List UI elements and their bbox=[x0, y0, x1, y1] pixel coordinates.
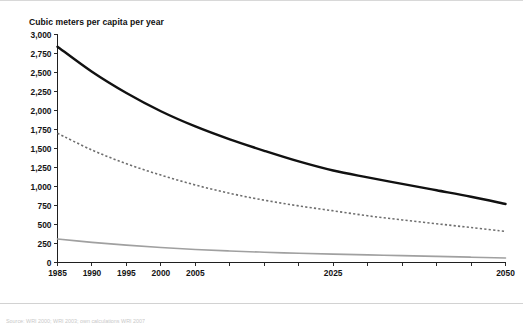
y-tick-label: 2,500 bbox=[31, 68, 52, 78]
figure-container: Cubic meters per capita per year 3,0002,… bbox=[0, 0, 523, 327]
y-tick-label: 250 bbox=[38, 239, 52, 249]
source-note: Source: WRI 2000; WRI 2003; own calculat… bbox=[6, 318, 145, 327]
x-axis-ticks: 1985199019952000200520252050 bbox=[48, 263, 515, 279]
y-tick-label: 1,750 bbox=[31, 125, 52, 135]
y-axis-ticks: 3,0002,7502,5002,2502,0001,7501,5001,250… bbox=[31, 30, 58, 268]
y-tick-label: 500 bbox=[38, 220, 52, 230]
series-line-mashriq bbox=[58, 47, 506, 204]
y-tick-label: 0 bbox=[47, 258, 52, 268]
y-tick-label: 750 bbox=[38, 201, 52, 211]
x-tick-label: 2025 bbox=[324, 268, 343, 278]
figure-bottom-divider bbox=[0, 303, 523, 304]
x-tick-label: 2050 bbox=[496, 268, 515, 278]
series-line-arabian-peninsula bbox=[58, 239, 506, 258]
x-tick-label: 2000 bbox=[152, 268, 171, 278]
x-tick-label: 2005 bbox=[186, 268, 205, 278]
y-tick-label: 2,750 bbox=[31, 49, 52, 59]
plot-area: 3,0002,7502,5002,2502,0001,7501,5001,250… bbox=[0, 0, 523, 300]
y-tick-label: 1,500 bbox=[31, 144, 52, 154]
x-tick-label: 1995 bbox=[117, 268, 136, 278]
line-chart: 3,0002,7502,5002,2502,0001,7501,5001,250… bbox=[0, 0, 523, 300]
y-tick-label: 3,000 bbox=[31, 30, 52, 40]
y-tick-label: 1,250 bbox=[31, 163, 52, 173]
y-tick-label: 1,000 bbox=[31, 182, 52, 192]
series-line-middle-east bbox=[58, 133, 506, 231]
series-group bbox=[58, 47, 506, 258]
x-tick-label: 1990 bbox=[83, 268, 102, 278]
y-tick-label: 2,000 bbox=[31, 106, 52, 116]
x-tick-label: 1985 bbox=[48, 268, 67, 278]
y-tick-label: 2,250 bbox=[31, 87, 52, 97]
